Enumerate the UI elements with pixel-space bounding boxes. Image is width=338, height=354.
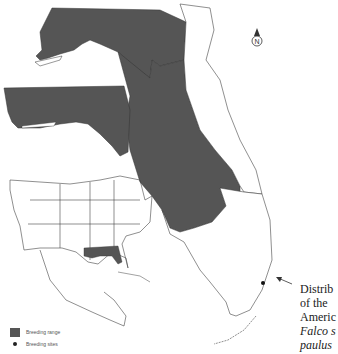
breeding-site-dot bbox=[261, 281, 265, 285]
caption-line: Distrib bbox=[300, 282, 336, 296]
caption-line: Americ bbox=[300, 310, 336, 324]
map-caption: Distrib of the Americ Falco s paulus bbox=[300, 282, 336, 352]
black-dot-icon bbox=[13, 342, 17, 346]
caption-line: paulus bbox=[300, 338, 336, 352]
caption-line: Falco s bbox=[300, 324, 336, 338]
caption-line: of the bbox=[300, 296, 336, 310]
legend-label: Breeding range bbox=[26, 329, 60, 335]
panhandle-inset bbox=[4, 86, 130, 156]
north-label: N bbox=[255, 38, 260, 45]
southeast-states-range bbox=[84, 246, 122, 264]
gray-square-icon bbox=[10, 328, 20, 337]
legend: Breeding range Breeding sites bbox=[10, 326, 60, 350]
legend-breeding-sites: Breeding sites bbox=[10, 338, 60, 350]
us-locator-map bbox=[10, 176, 152, 326]
legend-breeding-range: Breeding range bbox=[10, 326, 60, 338]
legend-label: Breeding sites bbox=[26, 341, 58, 347]
florida-distribution-map: N bbox=[0, 0, 338, 354]
